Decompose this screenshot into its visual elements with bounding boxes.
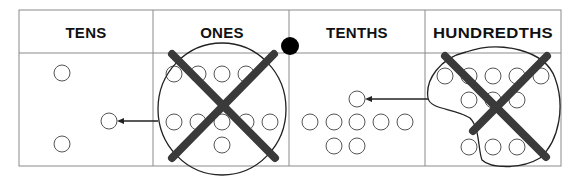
tenths-counters [302,91,413,154]
decimal-point [281,37,299,55]
arrow-ones-to-tens [117,118,158,124]
tens-counters [54,65,117,152]
header-tens: TENS [65,24,106,41]
place-value-chart: TENS ONES TENTHS HUNDREDTHS [0,0,578,180]
header-tenths: TENTHS [326,24,388,41]
header-ones: ONES [200,24,244,41]
arrow-hundredths-to-tenths [365,96,428,102]
header-hundredths: HUNDREDTHS [433,24,553,41]
